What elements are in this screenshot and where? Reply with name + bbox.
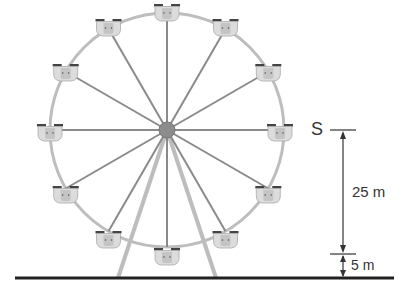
hub [159, 122, 175, 138]
ferris-wheel-diagram: S 25 m 5 m [0, 0, 408, 296]
gondola-3 [255, 64, 281, 81]
gondola-10 [37, 124, 63, 141]
gondola-12 [96, 19, 122, 36]
gondola-1 [154, 4, 180, 21]
base-height-label: 5 m [351, 258, 374, 272]
gondola-5 [255, 186, 281, 203]
gondola-9 [53, 186, 79, 203]
gondola-11 [53, 64, 79, 81]
gondola-4 [267, 124, 293, 141]
gondola-8 [96, 231, 122, 248]
radius-height-label: 25 m [352, 184, 385, 199]
point-s-label: S [311, 120, 323, 138]
gondola-6 [213, 231, 239, 248]
gondola-2 [213, 19, 239, 36]
dimension-markers [330, 130, 356, 277]
gondola-7 [154, 248, 180, 265]
